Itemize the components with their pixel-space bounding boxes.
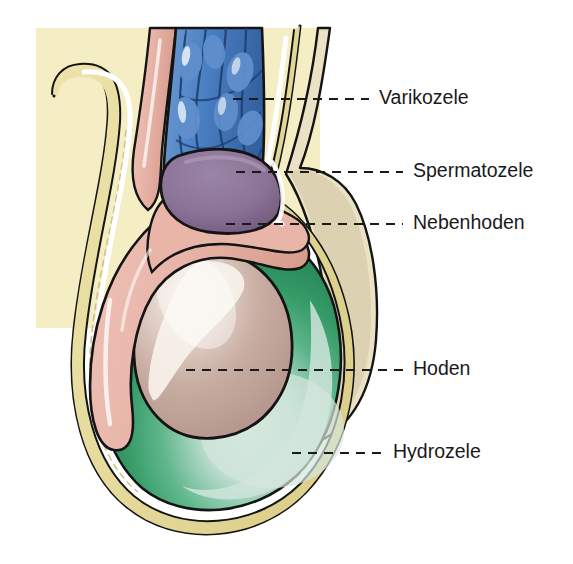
label-text-nebenhoden: Nebenhoden [413,211,525,233]
label-text-hydrozele: Hydrozele [393,440,481,462]
label-text-spermatozele: Spermatozele [413,159,533,181]
spermatocele-cyst [161,149,281,233]
label-text-varikozele: Varikozele [379,86,469,108]
illustration-canvas: Varikozele Spermatozele Nebenhoden Hoden… [0,0,573,564]
anatomical-figure: Varikozele Spermatozele Nebenhoden Hoden… [0,0,573,564]
label-text-hoden: Hoden [413,357,470,379]
